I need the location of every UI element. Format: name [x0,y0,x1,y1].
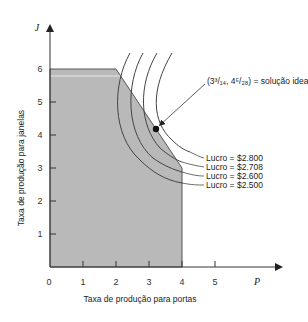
x-tick-5: 5 [212,277,217,287]
y-tick-3: 3 [37,163,42,173]
optimal-solution-label: (3³/₁₄, 4⁵/₂₈) = solução ideal [207,76,308,86]
y-tick-4: 4 [37,130,42,140]
optimal-pointer [160,84,205,125]
x-tick-3: 3 [146,277,151,287]
y-axis-title: Taxa de produção para janelas [16,110,26,226]
x-axis-title: Taxa de produção para portas [84,294,197,304]
x-tick-0: 0 [46,277,51,287]
profit-leaders [182,152,204,185]
x-tick-4: 4 [179,277,184,287]
x-tick-2: 2 [113,277,118,287]
profit-label-2500: Lucro = $2.500 [206,180,263,190]
x-tick-1: 1 [80,277,85,287]
y-tick-6: 6 [37,64,42,74]
optimal-point [153,126,159,132]
y-tick-1: 1 [37,229,42,239]
x-axis-variable: P [253,276,260,287]
y-axis-variable: J [35,22,40,33]
y-tick-5: 5 [37,97,42,107]
y-tick-2: 2 [37,196,42,206]
feasible-region [50,69,182,267]
chart-canvas: 0 1 2 3 4 5 P 1 2 3 4 5 6 J Taxa de prod… [0,0,308,322]
